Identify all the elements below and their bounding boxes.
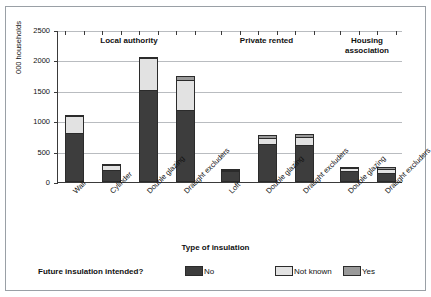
y-axis-label: 000 households	[14, 21, 23, 74]
bar-segment-not-known	[295, 137, 314, 145]
bar-local-authority-double-glazing	[139, 57, 158, 182]
x-tick-mark	[195, 31, 196, 35]
bar-segment-no	[65, 133, 84, 182]
gridline	[58, 92, 402, 93]
x-tick-mark	[359, 31, 360, 35]
gridline	[58, 31, 402, 32]
bar-segment-not-known	[176, 80, 195, 110]
y-tick-mark	[54, 31, 58, 32]
x-tick-mark	[158, 31, 159, 35]
x-tick-mark	[277, 31, 278, 35]
x-tick-mark	[240, 31, 241, 35]
x-tick-mark	[314, 31, 315, 35]
legend-label: No	[204, 267, 214, 276]
y-tick-label: 2000	[33, 57, 50, 65]
legend-item-not-known[interactable]: Not known	[275, 266, 332, 276]
legend-swatch-no	[185, 266, 203, 276]
x-tick-mark	[295, 31, 296, 35]
x-tick-mark	[139, 31, 140, 35]
y-tick-label: 0	[46, 179, 50, 187]
legend-label: Not known	[294, 267, 332, 276]
bar-private-rented-double-glazing	[258, 135, 277, 182]
x-tick-mark	[340, 31, 341, 35]
bar-segment-not-known	[139, 58, 158, 90]
x-tick-mark	[258, 31, 259, 35]
gridline	[58, 122, 402, 123]
legend-title: Future insulation intended?	[38, 267, 143, 276]
x-tick-mark	[65, 31, 66, 35]
x-axis-title: Type of insulation	[0, 243, 431, 252]
x-tick-mark	[221, 31, 222, 35]
x-tick-mark	[176, 31, 177, 35]
chart-legend: Future insulation intended? NoNot knownY…	[0, 266, 431, 280]
y-tick-label: 500	[37, 149, 50, 157]
y-tick-mark	[54, 153, 58, 154]
bar-local-authority-wall	[65, 115, 84, 182]
legend-item-no[interactable]: No	[185, 266, 214, 276]
y-tick-mark	[54, 61, 58, 62]
x-tick-mark	[377, 31, 378, 35]
chart-figure: 000 households 05001000150020002500 Loca…	[0, 0, 431, 297]
y-tick-mark	[54, 183, 58, 184]
group-title-housing-association: Housing association	[307, 36, 427, 56]
y-tick-label: 1500	[33, 88, 50, 96]
legend-swatch-yes	[343, 266, 361, 276]
y-tick-mark	[54, 122, 58, 123]
bar-segment-no	[139, 90, 158, 182]
legend-label: Yes	[362, 267, 375, 276]
gridline	[58, 61, 402, 62]
y-tick-mark	[54, 92, 58, 93]
y-tick-label: 2500	[33, 27, 50, 35]
y-tick-label: 1000	[33, 118, 50, 126]
group-title-local-authority: Local authority	[69, 36, 189, 46]
x-tick-mark	[84, 31, 85, 35]
legend-swatch-not-known	[275, 266, 293, 276]
x-tick-mark	[396, 31, 397, 35]
legend-item-yes[interactable]: Yes	[343, 266, 375, 276]
bar-segment-no	[258, 144, 277, 182]
bar-segment-no	[176, 110, 195, 182]
x-tick-mark	[121, 31, 122, 35]
x-tick-mark	[102, 31, 103, 35]
bar-segment-not-known	[65, 116, 84, 133]
